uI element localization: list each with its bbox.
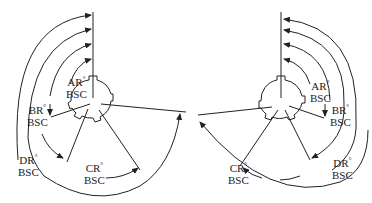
left-radial-br bbox=[51, 104, 90, 117]
right-br-name: BR bbox=[332, 104, 347, 116]
degree-symbol: ° bbox=[100, 161, 103, 169]
right-cr-bsc: BSC bbox=[228, 174, 249, 186]
right-radial-dr bbox=[198, 107, 272, 115]
degree-symbol: ° bbox=[83, 75, 86, 83]
left-cr-name: CR bbox=[86, 162, 101, 174]
degree-symbol: ° bbox=[327, 79, 330, 87]
left-ar-name: AR bbox=[67, 76, 82, 88]
left-label-dr: DR° BSC bbox=[18, 154, 39, 178]
right-label-cr: CR° BSC bbox=[228, 162, 249, 186]
left-br-bsc: BSC bbox=[27, 116, 48, 128]
left-radial-cr-start bbox=[67, 109, 88, 162]
right-radial-cr-start bbox=[285, 110, 310, 160]
left-br-name: BR bbox=[29, 104, 44, 116]
degree-symbol: ° bbox=[35, 153, 38, 161]
left-arc-cr-start bbox=[42, 134, 63, 158]
right-dr-name: DR bbox=[333, 157, 348, 169]
right-radial-cr-end bbox=[240, 110, 278, 166]
right-cr-name: CR bbox=[230, 162, 245, 174]
left-cr-bsc: BSC bbox=[84, 174, 105, 186]
left-dr-name: DR bbox=[19, 154, 34, 166]
right-hub bbox=[259, 76, 305, 120]
left-label-cr: CR° BSC bbox=[84, 162, 105, 186]
degree-symbol: ° bbox=[43, 103, 46, 111]
degree-symbol: ° bbox=[346, 103, 349, 111]
left-dr-bsc: BSC bbox=[18, 166, 39, 178]
left-arc-dr-end bbox=[140, 114, 180, 186]
left-radial-cr-end bbox=[99, 110, 140, 170]
right-ar-bsc: BSC bbox=[310, 92, 331, 104]
right-label-ar: AR° BSC bbox=[310, 80, 331, 104]
angle-diagram: AR° BSC BR° BSC CR° BSC DR° BSC AR° BSC … bbox=[0, 0, 372, 203]
right-dr-bsc: BSC bbox=[332, 169, 353, 181]
right-label-br: BR° BSC bbox=[330, 104, 351, 128]
degree-symbol: ° bbox=[244, 161, 247, 169]
degree-symbol: ° bbox=[349, 156, 352, 164]
left-radial-dr bbox=[101, 104, 186, 112]
right-label-dr: DR° BSC bbox=[332, 157, 353, 181]
right-arc-cr-mid bbox=[280, 176, 300, 180]
left-ar-bsc: BSC bbox=[66, 88, 87, 100]
left-arc-cr-end bbox=[106, 168, 138, 178]
right-br-bsc: BSC bbox=[330, 116, 351, 128]
right-ar-name: AR bbox=[311, 80, 326, 92]
right-arc-dr-end bbox=[200, 122, 340, 187]
left-label-ar: AR° BSC bbox=[66, 76, 87, 100]
left-label-br: BR° BSC bbox=[27, 104, 48, 128]
